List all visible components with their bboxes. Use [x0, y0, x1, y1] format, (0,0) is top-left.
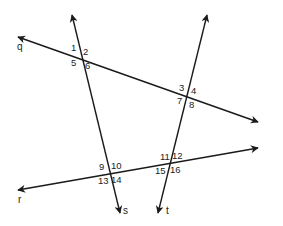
angle-label-9: 9	[99, 161, 104, 172]
line-t	[158, 15, 207, 213]
lines-group	[18, 15, 258, 213]
angle-label-1: 1	[71, 42, 76, 53]
angle-label-6: 6	[85, 60, 90, 71]
line-label-q: q	[17, 41, 23, 52]
angle-label-12: 12	[172, 150, 183, 161]
angle-label-4: 4	[191, 85, 196, 96]
angle-label-13: 13	[98, 175, 109, 186]
line-label-s: s	[123, 205, 128, 216]
angle-label-15: 15	[155, 165, 166, 176]
line-q	[18, 37, 258, 122]
line-labels-group: q r s t	[17, 41, 169, 216]
angle-label-2: 2	[83, 46, 88, 57]
angle-label-11: 11	[160, 151, 170, 162]
angle-label-16: 16	[170, 164, 181, 175]
angle-label-14: 14	[111, 174, 122, 185]
line-label-r: r	[18, 194, 22, 205]
angle-label-7: 7	[177, 95, 182, 106]
angle-label-10: 10	[111, 160, 122, 171]
line-r	[18, 148, 258, 190]
line-label-t: t	[166, 205, 169, 216]
angle-label-5: 5	[71, 57, 76, 68]
angle-label-8: 8	[189, 99, 194, 110]
angle-diagram: q r s t 12563478910131411121516	[0, 0, 283, 226]
angle-labels-group: 12563478910131411121516	[71, 42, 196, 186]
angle-label-3: 3	[179, 82, 184, 93]
